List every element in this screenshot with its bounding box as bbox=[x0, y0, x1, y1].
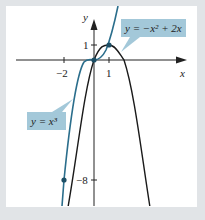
parabola-label-pointer bbox=[121, 37, 140, 52]
cubic-label-pointer bbox=[52, 99, 73, 112]
intersection-point bbox=[61, 177, 66, 182]
tick-label-y-neg8: −8 bbox=[76, 174, 88, 186]
x-axis-arrow-icon bbox=[176, 57, 187, 64]
x-axis-label: x bbox=[179, 67, 185, 79]
y-axis-arrow-icon bbox=[91, 19, 98, 30]
tick-label-x-1: 1 bbox=[106, 67, 112, 79]
parabola-label: y = −x² + 2x bbox=[124, 22, 182, 34]
cubic-curve bbox=[62, 6, 118, 206]
intersection-point bbox=[91, 57, 96, 62]
y-axis-label: y bbox=[82, 11, 88, 23]
cubic-label: y = x³ bbox=[30, 115, 58, 127]
tick-label-y-1: 1 bbox=[83, 39, 89, 51]
tick-label-x-neg2: −2 bbox=[56, 67, 68, 79]
intersection-point bbox=[106, 42, 111, 47]
graph: −2 1 1 −8 y x y = −x² + 2x y = x³ bbox=[0, 0, 205, 220]
